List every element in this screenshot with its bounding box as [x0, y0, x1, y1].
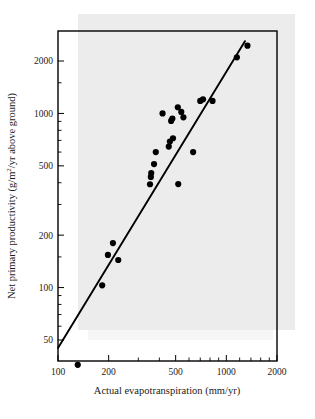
x-axis-tick-labels: 10020050010002000: [51, 367, 287, 377]
x-tick-label: 500: [169, 367, 184, 377]
y-tick-label: 50: [44, 335, 54, 345]
data-point: [200, 96, 206, 102]
y-axis-title-prefix: Net primary productivity (g/m: [6, 172, 18, 299]
data-point: [105, 252, 111, 258]
y-axis-title: Net primary productivity (g/m2/yr above …: [5, 92, 18, 299]
data-point: [115, 257, 121, 263]
x-tick-label: 200: [102, 367, 117, 377]
figure-page: 10020050010002000 5010020050010002000 Ac…: [0, 0, 315, 419]
data-point: [151, 161, 157, 167]
y-tick-label: 500: [39, 161, 54, 171]
x-axis-ticks: [58, 355, 277, 361]
y-axis-tick-labels: 5010020050010002000: [34, 56, 53, 345]
y-tick-label: 200: [39, 231, 54, 241]
plot-frame: [58, 31, 277, 361]
x-tick-label: 1000: [217, 367, 236, 377]
y-tick-label: 1000: [34, 109, 53, 119]
regression-line: [58, 41, 245, 348]
data-point: [234, 54, 240, 60]
data-point: [170, 135, 176, 141]
x-tick-label: 2000: [268, 367, 287, 377]
data-point: [153, 149, 159, 155]
data-point: [166, 143, 172, 149]
data-point: [110, 240, 116, 246]
data-point: [209, 98, 215, 104]
data-point: [178, 109, 184, 115]
data-points: [75, 43, 251, 368]
data-point: [175, 181, 181, 187]
regression-line-segment: [58, 41, 245, 348]
x-axis-title: Actual evapotranspiration (mm/yr): [94, 385, 241, 397]
data-point: [147, 181, 153, 187]
scatter-plot: 10020050010002000 5010020050010002000 Ac…: [0, 0, 315, 419]
y-axis-title-suffix: /yr above ground): [6, 92, 18, 168]
y-tick-label: 100: [39, 283, 54, 293]
data-point: [190, 149, 196, 155]
y-axis-ticks: [58, 61, 64, 340]
data-point: [169, 115, 175, 121]
x-tick-label: 100: [51, 367, 66, 377]
data-point: [159, 110, 165, 116]
data-point: [244, 43, 250, 49]
data-point: [99, 282, 105, 288]
data-point: [180, 114, 186, 120]
y-tick-label: 2000: [34, 56, 53, 66]
data-point: [148, 170, 154, 176]
data-point: [75, 362, 81, 368]
